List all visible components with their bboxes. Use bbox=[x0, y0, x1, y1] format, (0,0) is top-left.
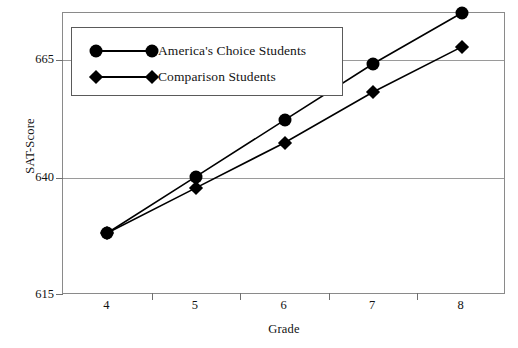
y-tick-mark-665 bbox=[56, 60, 63, 61]
y-tick-label-640: 640 bbox=[8, 170, 54, 185]
y-tick-label-group: 665 640 615 bbox=[0, 0, 54, 348]
x-tick-label-7: 7 bbox=[352, 298, 392, 313]
diamond-marker-icon bbox=[89, 70, 103, 84]
legend-line-segment bbox=[96, 76, 152, 78]
legend-item-comparison-students: Comparison Students bbox=[72, 64, 342, 90]
y-tick-mark-615 bbox=[56, 294, 63, 295]
legend-item-americas-choice-students: America's Choice Students bbox=[72, 38, 342, 64]
legend-swatch-diamond bbox=[90, 67, 158, 87]
legend: America's Choice Students Comparison Stu… bbox=[71, 27, 343, 96]
legend-swatch-circle bbox=[90, 41, 158, 61]
x-tick-label-5: 5 bbox=[175, 298, 215, 313]
circle-marker-icon bbox=[146, 45, 159, 58]
y-tick-label-615: 615 bbox=[8, 287, 54, 302]
x-tick-label-6: 6 bbox=[264, 298, 304, 313]
y-tick-label-665: 665 bbox=[8, 52, 54, 67]
legend-label: Comparison Students bbox=[158, 69, 276, 85]
diamond-marker-icon bbox=[145, 70, 159, 84]
sat-score-line-chart: SAT-Score 665 640 615 4 5 6 7 8 Grade bbox=[0, 0, 518, 348]
legend-label: America's Choice Students bbox=[158, 43, 306, 59]
legend-line-segment bbox=[96, 50, 152, 52]
x-axis-title: Grade bbox=[62, 322, 506, 337]
circle-marker-icon bbox=[90, 45, 103, 58]
y-tick-mark-640 bbox=[56, 178, 63, 179]
x-tick-label-4: 4 bbox=[86, 298, 126, 313]
x-tick-label-8: 8 bbox=[441, 298, 481, 313]
